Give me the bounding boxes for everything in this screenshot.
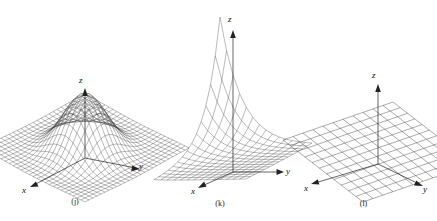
panel-l-x-axis-label: x xyxy=(304,183,308,193)
panel-k-caption: (k) xyxy=(150,199,290,208)
panel-l-surface-svg xyxy=(290,0,437,221)
panel-j-x-axis-label: x xyxy=(22,185,26,195)
panel-k-surface-svg xyxy=(150,0,290,221)
figure-three-surface-plots: z x y (j) z x y (k) xyxy=(0,0,437,221)
panel-j-axes xyxy=(30,88,140,187)
panel-j: z x y (j) xyxy=(0,0,150,221)
panel-l-z-axis-label: z xyxy=(372,70,376,80)
panel-j-z-axis-label: z xyxy=(79,75,83,85)
panel-k-z-axis-label: z xyxy=(228,14,232,24)
panel-k: z x y (k) xyxy=(150,0,290,221)
panel-l-caption: (l) xyxy=(290,199,437,208)
panel-l-y-axis-label: y xyxy=(423,184,427,194)
panel-l: z x y (l) xyxy=(290,0,437,221)
panel-j-y-axis-label: y xyxy=(139,161,143,171)
panel-k-x-axis-label: x xyxy=(191,186,195,196)
panel-j-caption: (j) xyxy=(0,197,150,206)
